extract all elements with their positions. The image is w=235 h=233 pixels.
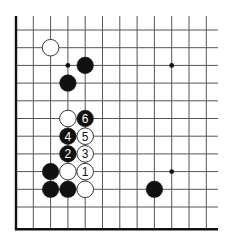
- go-board-diagram: 645231: [0, 0, 235, 233]
- black-stone: 2: [60, 146, 77, 163]
- star-point: [169, 169, 174, 174]
- move-number: 2: [65, 147, 72, 161]
- move-number: 5: [82, 130, 89, 144]
- white-stone: 3: [77, 146, 94, 163]
- black-stone: [42, 163, 59, 180]
- white-stone: [77, 181, 94, 198]
- white-stone: [60, 110, 77, 127]
- black-stone: 6: [77, 110, 94, 127]
- white-stone: 5: [77, 128, 94, 145]
- black-stone: [60, 75, 77, 92]
- move-number: 1: [82, 165, 89, 179]
- black-stone: [77, 57, 94, 74]
- move-number: 4: [65, 130, 72, 144]
- move-number: 6: [82, 112, 89, 126]
- black-stone: [146, 181, 163, 198]
- black-stone: 4: [60, 128, 77, 145]
- white-stone: [42, 39, 59, 56]
- black-stone: [60, 181, 77, 198]
- star-point: [169, 63, 174, 68]
- star-point: [66, 63, 71, 68]
- black-stone: [42, 181, 59, 198]
- white-stone: [60, 163, 77, 180]
- move-number: 3: [82, 147, 89, 161]
- white-stone: 1: [77, 163, 94, 180]
